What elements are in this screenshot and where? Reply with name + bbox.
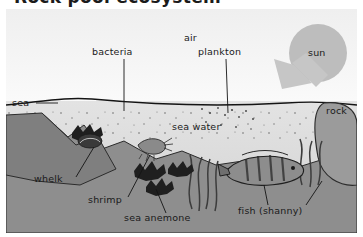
- page-heading-clipped: Rock pool ecosystem: [0, 0, 363, 9]
- page-title: Rock pool ecosystem: [14, 0, 221, 7]
- label-bacteria: bacteria: [92, 46, 133, 57]
- label-sea: sea: [12, 97, 29, 108]
- label-sea-anemone: sea anemone: [124, 212, 190, 223]
- whelk-shell: [78, 134, 102, 148]
- label-air: air: [184, 32, 197, 43]
- label-sun: sun: [308, 47, 326, 58]
- rockpool-diagram: elearning: [6, 9, 357, 233]
- label-plankton: plankton: [198, 46, 241, 57]
- label-rock: rock: [326, 105, 347, 116]
- label-fish-shanny: fish (shanny): [238, 205, 302, 216]
- label-sea-water: sea water: [172, 121, 221, 132]
- label-whelk: whelk: [34, 173, 63, 184]
- label-shrimp: shrimp: [88, 194, 122, 205]
- diagram-page: Rock pool ecosystem elearning: [0, 0, 363, 237]
